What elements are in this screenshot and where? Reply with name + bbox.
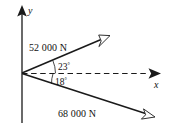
- angle-18-value: 18: [55, 77, 65, 87]
- angle-18-degree-symbol: °: [65, 77, 68, 83]
- diagram-canvas: y x 23° 18° 52 000 N 68 000 N: [0, 0, 181, 131]
- angle-label-23: 23°: [58, 62, 71, 73]
- upper-force-magnitude-label: 52 000 N: [29, 42, 67, 53]
- lower-force-magnitude-label: 68 000 N: [58, 108, 96, 119]
- lower-force-arrowhead: [141, 109, 155, 119]
- angle-23-value: 23: [58, 62, 68, 72]
- x-axis-label: x: [153, 79, 159, 90]
- upper-force-arrowhead: [99, 35, 110, 47]
- angle-arc-23: [53, 60, 56, 73]
- x-axis-arrowhead: [149, 68, 162, 79]
- angle-label-18: 18°: [55, 77, 68, 88]
- y-axis-label: y: [27, 5, 33, 16]
- angle-arc-18: [51, 74, 53, 84]
- force-vector-diagram: y x 23° 18° 52 000 N 68 000 N: [0, 0, 181, 131]
- angle-23-degree-symbol: °: [68, 62, 71, 68]
